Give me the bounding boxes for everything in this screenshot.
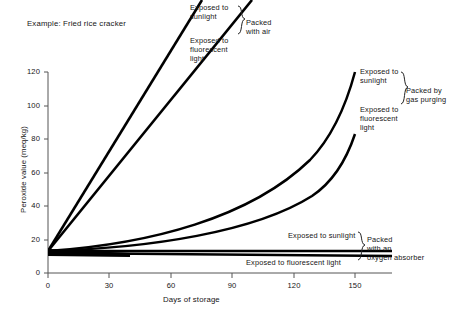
y-tick-label-80: 80	[22, 134, 40, 143]
y-tick-label-100: 100	[17, 101, 40, 110]
series-line-gas-sunlight	[48, 72, 355, 251]
x-axis-title: Days of storage	[163, 295, 220, 304]
x-tick-label-30: 30	[100, 281, 118, 290]
x-tick-label-90: 90	[223, 281, 241, 290]
annotation-oxygen-fluorescent: Exposed to fluorescent light	[246, 258, 341, 267]
y-tick-label-120: 120	[17, 67, 40, 76]
x-tick-label-120: 120	[283, 281, 305, 290]
series-line-air-sunlight	[48, 0, 202, 251]
y-tick-label-60: 60	[22, 168, 40, 177]
x-tick-label-0: 0	[42, 281, 54, 290]
annotation-gas-fluorescent: Exposed to fluorescent light	[360, 105, 398, 133]
annotation-gas-sunlight: Exposed to sunlight	[360, 67, 398, 85]
annotation-air-sunlight: Exposed to sunlight	[190, 3, 228, 21]
x-axis-ticks	[48, 273, 355, 278]
example-note: Example: Fried rice cracker	[27, 19, 126, 28]
y-tick-label-0: 0	[28, 268, 40, 277]
chart-canvas	[0, 0, 463, 313]
brace-group	[238, 6, 408, 260]
annotation-group-packed-gas-purging: Packed by gas purging	[406, 86, 446, 104]
axes	[48, 72, 392, 273]
y-tick-label-20: 20	[22, 235, 40, 244]
y-tick-label-40: 40	[22, 201, 40, 210]
y-axis-ticks	[44, 72, 48, 273]
x-tick-label-60: 60	[162, 281, 180, 290]
annotation-oxygen-sunlight: Exposed to sunlight	[288, 231, 355, 240]
annotation-air-fluorescent: Exposed to fluorescent light	[190, 36, 228, 64]
annotation-group-packed-with-air: Packed with air	[246, 18, 272, 36]
x-tick-label-150: 150	[344, 281, 366, 290]
annotation-group-packed-oxygen-absorber: Packed with an oxygen absorber	[367, 235, 424, 263]
peroxide-value-chart: Example: Fried rice cracker Days of stor…	[0, 0, 463, 313]
